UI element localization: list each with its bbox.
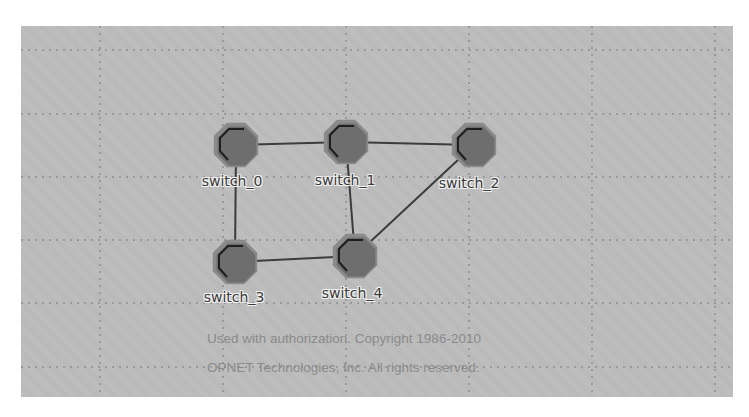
- switch-node-icon[interactable]: [214, 123, 258, 167]
- switch-node-icon[interactable]: [452, 123, 496, 167]
- switch-node-icon[interactable]: [213, 240, 257, 284]
- switch-node-icon[interactable]: [333, 234, 377, 278]
- copyright-line-1: Used with authorization. Copyright 1986-…: [207, 331, 481, 346]
- link-switch_2-switch_4[interactable]: [355, 145, 474, 256]
- switch-node-icon[interactable]: [324, 120, 368, 164]
- node-label-switch_3: switch_3: [204, 289, 265, 305]
- copyright-line-2: OPNET Technologies, Inc. All rights rese…: [207, 360, 480, 375]
- node-label-switch_1: switch_1: [315, 172, 376, 188]
- node-label-switch_0: switch_0: [202, 173, 263, 189]
- node-label-switch_2: switch_2: [439, 175, 500, 191]
- node-label-switch_4: switch_4: [322, 285, 383, 301]
